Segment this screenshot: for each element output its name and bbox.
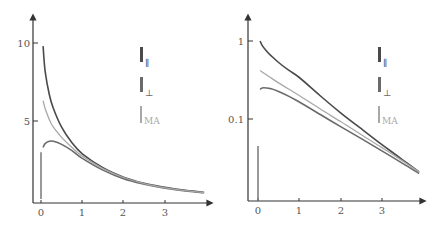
left-xtick-label-0: 0 (38, 207, 44, 218)
right-legend: ∥ ⊥ MA (378, 47, 398, 126)
legend-sub-parallel: ∥ (383, 58, 387, 68)
right-ytick-label-0.1: 0.1 (228, 114, 244, 125)
right-xtick-label-3: 3 (379, 205, 385, 216)
left-ytick-label-10: 10 (17, 38, 30, 49)
left-chart: 10 5 0 1 2 3 ∥ ⊥ MA (17, 17, 210, 218)
left-xtick-label-2: 2 (120, 207, 126, 218)
curve-perp (260, 88, 419, 174)
right-xtick-label-0: 0 (255, 205, 261, 216)
legend-item-perp: ⊥ (140, 77, 153, 98)
legend-item-parallel: ∥ (140, 47, 149, 68)
legend-item-ma: MA (140, 106, 160, 126)
curve-parallel (43, 46, 204, 192)
left-curves (41, 46, 204, 199)
curve-perp (43, 141, 204, 193)
legend-sub-parallel: ∥ (145, 58, 149, 68)
right-ytick-label-1: 1 (238, 36, 244, 47)
left-xtick-label-1: 1 (79, 207, 85, 218)
legend-item-ma: MA (378, 106, 398, 126)
legend-item-perp: ⊥ (378, 77, 391, 98)
right-chart: 1 0.1 0 1 2 3 ∥ ⊥ MA (228, 17, 423, 216)
right-xtick-label-2: 2 (338, 205, 344, 216)
left-legend: ∥ ⊥ MA (140, 47, 160, 126)
left-ytick-label-5: 5 (24, 116, 30, 127)
legend-sub-perp: ⊥ (145, 88, 153, 98)
legend-sub-perp: ⊥ (383, 88, 391, 98)
legend-sub-ma: MA (382, 116, 398, 126)
right-xtick-label-1: 1 (296, 205, 302, 216)
figure: 10 5 0 1 2 3 ∥ ⊥ MA (0, 0, 441, 225)
curve-parallel (260, 41, 419, 172)
legend-item-parallel: ∥ (378, 47, 387, 68)
left-xtick-label-3: 3 (162, 207, 168, 218)
legend-sub-ma: MA (144, 116, 160, 126)
